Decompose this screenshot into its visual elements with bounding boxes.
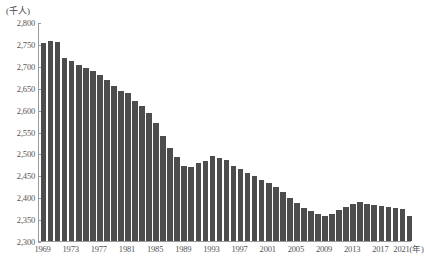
- bar: [97, 75, 103, 241]
- y-axis-tick-label: 2,450: [17, 172, 35, 181]
- bar: [238, 169, 244, 241]
- y-axis-tick-label: 2,400: [17, 194, 35, 203]
- y-axis: 2,8002,7502,7002,6502,6002,5502,5002,450…: [0, 23, 38, 242]
- bar: [371, 205, 377, 241]
- bar: [111, 86, 117, 241]
- bar: [294, 203, 300, 241]
- bar: [386, 207, 392, 241]
- bar: [315, 214, 321, 241]
- bar: [407, 216, 413, 241]
- bar: [76, 65, 82, 241]
- x-axis-tick-label: 1969: [34, 244, 50, 254]
- bar: [266, 183, 272, 241]
- bar: [48, 41, 54, 241]
- bar: [308, 211, 314, 241]
- bar: [329, 214, 335, 241]
- y-axis-tick-mark: [38, 242, 41, 243]
- x-axis-tick-label: 2017: [372, 244, 388, 254]
- y-axis-unit-label: (千人): [6, 6, 30, 17]
- x-axis-tick-label: 1973: [63, 244, 79, 254]
- plot-area: [38, 23, 411, 242]
- y-axis-tick-label: 2,650: [17, 84, 35, 93]
- bar: [153, 123, 159, 241]
- x-axis-tick-label: 1985: [147, 244, 163, 254]
- x-axis-tick-label: 2013: [344, 244, 360, 254]
- bar: [357, 202, 363, 241]
- bar-series: [39, 23, 411, 241]
- y-axis-tick-label: 2,750: [17, 40, 35, 49]
- bar: [301, 208, 307, 241]
- bar: [343, 207, 349, 241]
- bar: [139, 106, 145, 241]
- x-axis-tick-label: 1993: [203, 244, 219, 254]
- bar: [273, 187, 279, 241]
- bar: [322, 216, 328, 241]
- y-axis-tick-label: 2,550: [17, 128, 35, 137]
- x-axis-tick-label: 1977: [91, 244, 107, 254]
- y-axis-tick-label: 2,800: [17, 19, 35, 28]
- bar: [224, 160, 230, 241]
- y-axis-tick-label: 2,600: [17, 106, 35, 115]
- x-axis-tick-label: 2001: [260, 244, 276, 254]
- bar: [364, 204, 370, 241]
- bar: [203, 161, 209, 241]
- bar: [55, 42, 61, 241]
- bar: [259, 180, 265, 241]
- bar: [217, 158, 223, 241]
- bar: [174, 157, 180, 241]
- x-axis: 1969197319771981198519891993199720012005…: [0, 244, 419, 264]
- x-axis-tick-label: 1997: [231, 244, 247, 254]
- bar: [146, 113, 152, 241]
- bar: [167, 148, 173, 241]
- y-axis-tick-label: 2,350: [17, 216, 35, 225]
- bar: [132, 101, 138, 241]
- x-axis-tick-label: 2005: [288, 244, 304, 254]
- bar: [104, 80, 110, 241]
- bar: [231, 166, 237, 241]
- bar: [393, 208, 399, 241]
- bar: [287, 198, 293, 241]
- bar: [336, 210, 342, 241]
- bar: [90, 71, 96, 241]
- x-axis-tick-label: 1981: [119, 244, 135, 254]
- bar: [252, 176, 258, 241]
- bar: [210, 156, 216, 241]
- bar: [188, 167, 194, 241]
- bar: [245, 173, 251, 241]
- x-axis-tick-label: 2021(年): [393, 244, 423, 254]
- bar: [62, 58, 68, 241]
- bar: [280, 192, 286, 241]
- bar: [125, 93, 131, 241]
- bar: [350, 204, 356, 241]
- bar: [160, 136, 166, 241]
- bar: [118, 91, 124, 241]
- x-axis-tick-label: 2009: [316, 244, 332, 254]
- bar: [196, 163, 202, 241]
- bar: [41, 43, 47, 241]
- x-axis-tick-label: 1989: [175, 244, 191, 254]
- bar: [379, 206, 385, 241]
- y-axis-tick-label: 2,500: [17, 150, 35, 159]
- bar: [400, 209, 406, 241]
- bar: [181, 166, 187, 241]
- y-axis-tick-label: 2,700: [17, 62, 35, 71]
- bar: [69, 61, 75, 241]
- bar: [83, 68, 89, 241]
